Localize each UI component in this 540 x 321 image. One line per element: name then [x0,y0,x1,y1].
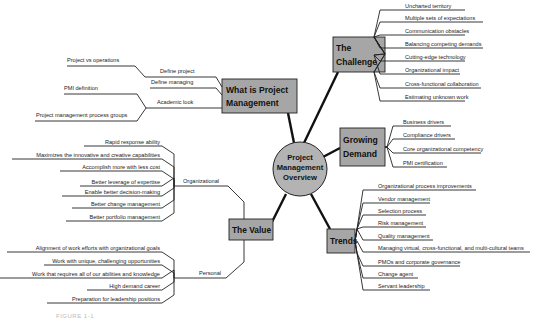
connector-what [288,113,294,143]
center-node[interactable]: Project Management Overview [273,142,327,196]
leaf-better-leverage-of-expertise: Better leverage of expertise [92,179,160,185]
leaf-cross-functional-collaboration: Cross-functional collaboration [405,81,479,87]
branch-growing-demand: Growing Demand Business driversComplianc… [340,119,483,168]
leaf-pmi-definition: PMI definition [64,85,98,91]
leaf-uncharted-territory: Uncharted territory [405,3,452,9]
mind-map: Project Management Overview What is Proj… [0,0,540,321]
leaf-quality-management: Quality management [378,233,430,239]
leaf-preparation-for-leadership-positions: Preparation for leadership positions [72,296,160,302]
sub-academic-look: Academic look [157,99,194,105]
branch-trends: Trends Organizational process improvemen… [327,183,530,291]
connector-challenge [304,72,338,143]
connector-value [272,194,286,222]
leaf-work-that-requires-all-of-our-abilities-and-knowledge: Work that requires all of our abilities … [32,271,160,277]
figure-caption: FIGURE 1-1 [56,313,94,319]
leaf-better-change-management: Better change management [91,201,160,207]
demand-title-2: Demand [343,149,377,159]
leaf-servant-leadership: Servant leadership [378,283,425,289]
what-is-pm-title-2: Management [226,98,279,108]
leaf-business-drivers: Business drivers [403,119,444,125]
leaf-organizational-impact: Organizational impact [405,67,460,73]
what-is-pm-title-1: What is Project [226,85,288,95]
leaf-estimating-unknown-work: Estimating unknown work [405,94,469,100]
leaf-work-with-unique-challenging-opportunities: Work with unique, challenging opportunit… [52,258,160,264]
connector-trends [311,194,330,229]
center-title-line-1: Project [287,153,313,162]
demand-title-1: Growing [343,135,378,145]
leaf-alignment-of-work-efforts-with-organizational-goals: Alignment of work efforts with organizat… [36,245,160,251]
leaf-enable-better-decision-making: Enable better decision-making [85,189,160,195]
leaf-multiple-sets-of-expectations: Multiple sets of expectations [405,15,475,21]
challenge-title-1: The [336,43,351,53]
branch-the-value: The Value Organizational Personal Rapid … [0,139,273,304]
sub-organizational: Organizational [183,178,219,184]
leaf-pmi-certification: PMI certification [403,160,443,166]
leaf-better-portfolio-management: Better portfolio management [89,214,160,220]
leaf-selection-process: Selection process [378,208,422,214]
leaf-pmos-and-corporate-governance: PMOs and corporate governance [378,259,460,265]
leaf-cutting-edge-technology: Cutting-edge technology [405,54,466,60]
center-title-line-3: Overview [283,173,317,182]
leaf-change-agent: Change agent [378,271,414,277]
leaf-vendor-management: Vendor management [378,196,430,202]
sub-define-project: Define project [160,68,195,74]
sub-personal: Personal [199,270,221,276]
leaf-organizational-process-improvements: Organizational process improvements [378,183,472,189]
branch-the-challenge: The Challenge Uncharted territoryMultipl… [333,3,483,102]
leaf-balancing-competing-demands: Balancing competing demands [405,41,482,47]
leaf-pm-process-groups: Project management process groups [36,112,128,118]
branch-what-is-pm: What is Project Management Define projec… [35,57,297,121]
leaf-accomplish-more-with-less-cost: Accomplish more with less cost [82,164,160,170]
leaf-maximizes-the-innovative-and-creative-capabilities: Maximizes the innovative and creative ca… [36,152,160,158]
leaf-project-vs-operations: Project vs operations [67,57,119,63]
connector-demand [323,148,340,157]
leaf-risk-management: Risk management [378,220,424,226]
leaf-high-demand-career: High demand career [109,283,160,289]
center-title-line-2: Management [277,163,324,172]
leaf-managing-virtual-cross-functional-and-multi-cultural-teams: Managing virtual, cross-functional, and … [378,245,524,251]
leaf-rapid-response-ability: Rapid response ability [105,139,160,145]
leaf-core-organizational-competency: Core organizational competency [403,146,483,152]
trends-title: Trends [330,236,358,246]
demand-box[interactable] [340,128,385,166]
sub-define-managing: Define managing [151,79,193,85]
challenge-title-2: Challenge [336,57,377,67]
leaf-compliance-drivers: Compliance drivers [403,132,451,138]
value-title: The Value [232,225,271,235]
leaf-communication-obstacles: Communication obstacles [405,28,469,34]
